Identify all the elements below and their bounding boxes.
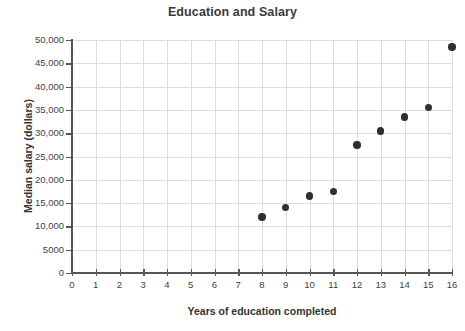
data-point — [353, 141, 360, 148]
y-axis-tick-label: 30,000 — [4, 127, 64, 138]
data-point — [448, 43, 455, 50]
y-axis-tick — [66, 203, 73, 204]
y-axis-tick — [66, 180, 73, 181]
gridline-vertical — [96, 40, 97, 273]
y-axis-tick-label: 20,000 — [4, 174, 64, 185]
y-axis-tick-label: 25,000 — [4, 151, 64, 162]
x-axis-tick-label: 1 — [85, 279, 107, 290]
x-axis-tick-label: 13 — [370, 279, 392, 290]
y-axis-tick — [66, 87, 73, 88]
x-axis-tick — [143, 269, 144, 276]
x-axis-tick — [72, 269, 73, 276]
x-axis-tick — [262, 269, 263, 276]
y-axis-tick — [66, 157, 73, 158]
gridline-vertical — [428, 40, 429, 273]
x-axis-tick — [215, 269, 216, 276]
y-axis-tick — [66, 63, 73, 64]
x-axis-tick — [191, 269, 192, 276]
data-point — [377, 127, 384, 134]
x-axis-tick-label: 11 — [322, 279, 344, 290]
gridline-vertical — [405, 40, 406, 273]
data-point — [401, 113, 408, 120]
x-axis-tick-label: 10 — [299, 279, 321, 290]
x-axis-title: Years of education completed — [72, 305, 452, 317]
x-axis-tick — [381, 269, 382, 276]
y-axis-tick — [66, 226, 73, 227]
gridline-vertical — [215, 40, 216, 273]
x-axis-tick-label: 8 — [251, 279, 273, 290]
gridline-vertical — [381, 40, 382, 273]
chart-title: Education and Salary — [0, 5, 465, 19]
gridline-vertical — [333, 40, 334, 273]
y-axis-tick-label: 15,000 — [4, 197, 64, 208]
y-axis-tick-label: 45,000 — [4, 57, 64, 68]
x-axis-tick-label: 0 — [61, 279, 83, 290]
data-point — [258, 213, 265, 220]
y-axis-tick-label: 50,000 — [4, 34, 64, 45]
x-axis-tick-label: 4 — [156, 279, 178, 290]
x-axis-tick-label: 16 — [441, 279, 463, 290]
x-axis-tick-label: 2 — [109, 279, 131, 290]
gridline-vertical — [286, 40, 287, 273]
x-axis-tick — [428, 269, 429, 276]
gridline-vertical — [167, 40, 168, 273]
x-axis-tick-label: 12 — [346, 279, 368, 290]
y-axis-tick — [66, 110, 73, 111]
x-axis-tick-label: 14 — [394, 279, 416, 290]
plot-area — [72, 40, 452, 273]
x-axis-tick — [120, 269, 121, 276]
gridline-vertical — [310, 40, 311, 273]
y-axis-tick-label: 10,000 — [4, 220, 64, 231]
chart-figure: Education and Salary 0500010,00015,00020… — [0, 0, 465, 331]
y-axis-tick — [66, 40, 73, 41]
y-axis-tick — [66, 250, 73, 251]
x-axis-tick — [357, 269, 358, 276]
x-axis-tick-label: 3 — [132, 279, 154, 290]
x-axis-tick — [238, 269, 239, 276]
x-axis-tick-label: 5 — [180, 279, 202, 290]
gridline-vertical — [452, 40, 453, 273]
x-axis-tick — [452, 269, 453, 276]
x-axis-tick — [333, 269, 334, 276]
x-axis-tick-label: 15 — [417, 279, 439, 290]
data-point — [330, 188, 337, 195]
gridline-vertical — [262, 40, 263, 273]
x-axis-tick — [96, 269, 97, 276]
y-axis-tick-label: 40,000 — [4, 81, 64, 92]
data-point — [306, 192, 313, 199]
y-axis-tick-label: 5000 — [4, 244, 64, 255]
x-axis-tick — [405, 269, 406, 276]
x-axis-tick-label: 9 — [275, 279, 297, 290]
x-axis-tick — [167, 269, 168, 276]
gridline-vertical — [238, 40, 239, 273]
y-axis-title: Median salary (dollars) — [22, 76, 34, 236]
y-axis-tick-label: 0 — [4, 267, 64, 278]
gridline-vertical — [120, 40, 121, 273]
x-axis-tick-label: 6 — [204, 279, 226, 290]
gridline-vertical — [191, 40, 192, 273]
x-axis-tick-label: 7 — [227, 279, 249, 290]
x-axis-tick — [286, 269, 287, 276]
y-axis-tick-label: 35,000 — [4, 104, 64, 115]
gridline-vertical — [143, 40, 144, 273]
y-axis-tick — [66, 133, 73, 134]
data-point — [282, 204, 289, 211]
gridline-vertical — [357, 40, 358, 273]
x-axis-tick — [310, 269, 311, 276]
